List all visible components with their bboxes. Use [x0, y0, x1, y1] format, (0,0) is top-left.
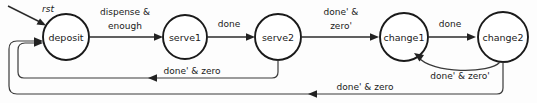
state-label-change1: change1 [383, 32, 424, 43]
edge-change2-change1 [418, 57, 500, 70]
edge-label-deposit-serve1-line1: dispense & [100, 7, 150, 17]
edge-label-serve1-serve2: done [218, 19, 241, 29]
edge-label-change2-deposit: done' & zero [337, 82, 394, 92]
state-node-change1[interactable]: change1 [380, 13, 428, 61]
state-label-deposit: deposit [48, 32, 83, 43]
arrowhead-change2-deposit-mid [308, 90, 317, 98]
transition-change1-to-change2: done [428, 19, 476, 41]
edge-label-change2-change1: done' & zero' [430, 71, 489, 81]
state-label-change2: change2 [482, 32, 523, 43]
reset-arrowhead [37, 19, 47, 26]
reset-label: rst [42, 4, 54, 14]
state-node-serve2[interactable]: serve2 [255, 14, 301, 60]
edge-label-deposit-serve1-line2: enough [108, 21, 142, 31]
state-node-serve1[interactable]: serve1 [163, 15, 207, 59]
arrowhead-serve2-deposit-mid [148, 74, 157, 82]
arrowhead-deposit-serve1 [154, 33, 163, 41]
fsm-diagram: rst deposit serve1 serve2 change1 change… [0, 0, 537, 103]
fsm-canvas: rst deposit serve1 serve2 change1 change… [0, 0, 537, 103]
transition-serve1-to-serve2: done [207, 19, 255, 41]
arrowhead-change1-change2 [467, 33, 476, 41]
arrowhead-serve1-serve2 [246, 33, 255, 41]
state-label-serve2: serve2 [262, 32, 294, 43]
edge-label-serve2-deposit: done' & zero [164, 66, 221, 76]
transition-deposit-to-serve1: dispense & enough [89, 7, 163, 41]
state-node-change2[interactable]: change2 [478, 12, 528, 62]
edge-label-serve2-change1-line1: done' & [324, 7, 359, 17]
state-node-deposit[interactable]: deposit [43, 14, 89, 60]
state-label-serve1: serve1 [169, 32, 201, 43]
arrowhead-serve2-change1 [370, 33, 379, 41]
transition-serve2-to-change1: done' & zero' [301, 7, 379, 41]
edge-label-serve2-change1-line2: zero' [330, 21, 352, 31]
edge-label-change1-change2: done [439, 19, 462, 29]
